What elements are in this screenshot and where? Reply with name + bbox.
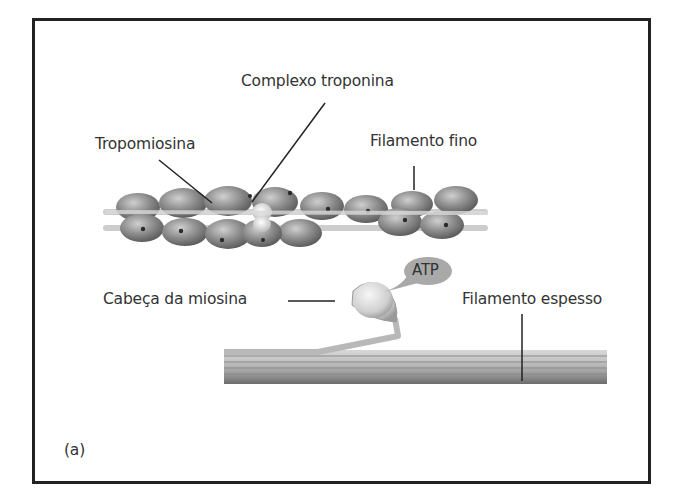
label-tropomyosin: Tropomiosina	[95, 135, 195, 153]
label-thin-filament: Filamento fino	[370, 132, 477, 150]
label-thick-filament: Filamento espesso	[462, 290, 602, 308]
label-myosin-head: Cabeça da miosina	[103, 290, 247, 308]
troponin-leader	[252, 103, 325, 202]
label-atp: ATP	[412, 261, 439, 279]
thin-filament	[103, 186, 488, 249]
panel-label: (a)	[64, 441, 85, 459]
label-troponin-complex: Complexo troponina	[241, 72, 394, 90]
